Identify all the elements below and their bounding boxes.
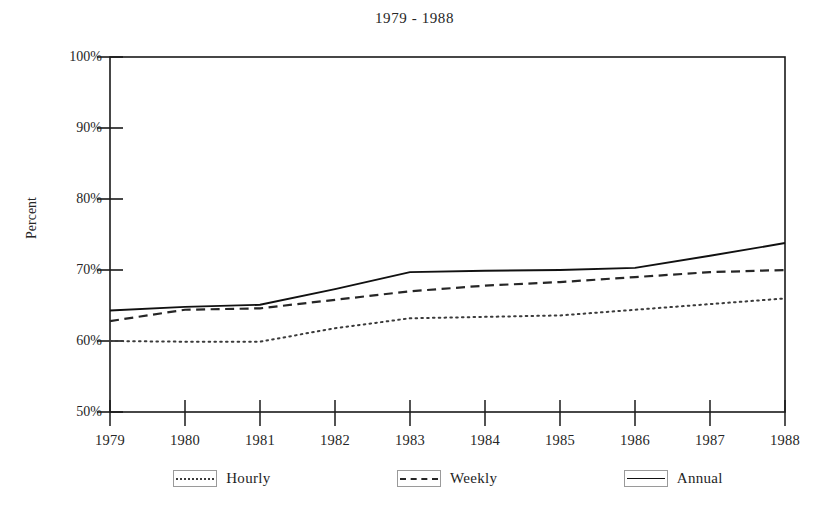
plot-frame — [110, 57, 785, 412]
series-line-hourly — [110, 298, 785, 341]
chart-legend: HourlyWeeklyAnnual — [110, 470, 786, 487]
legend-label: Hourly — [226, 470, 270, 487]
legend-line-sample-icon — [176, 478, 214, 480]
legend-item-hourly[interactable]: Hourly — [173, 470, 270, 487]
data-series-group — [110, 243, 785, 342]
series-line-weekly — [110, 270, 785, 321]
legend-item-weekly[interactable]: Weekly — [397, 470, 497, 487]
legend-line-sample-icon — [627, 478, 665, 479]
legend-label: Weekly — [450, 470, 497, 487]
legend-swatch-annual — [624, 470, 668, 487]
legend-label: Annual — [677, 470, 723, 487]
series-line-annual — [110, 243, 785, 310]
axes-frame — [110, 57, 785, 412]
legend-swatch-hourly — [173, 470, 217, 487]
x-tick-marks — [110, 400, 785, 426]
chart-figure: 1979 - 1988 Percent 100%90%80%70%60%50% … — [0, 0, 829, 523]
legend-item-annual[interactable]: Annual — [624, 470, 723, 487]
plot-area — [0, 0, 829, 523]
legend-line-sample-icon — [400, 478, 438, 480]
legend-swatch-weekly — [397, 470, 441, 487]
